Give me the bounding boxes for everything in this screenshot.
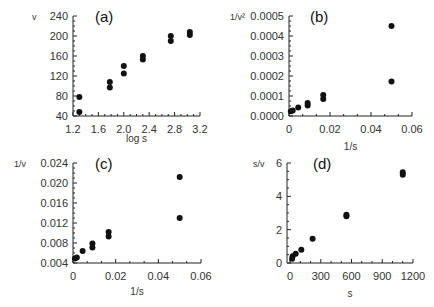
y-axis-label: 1/v (14, 159, 27, 169)
data-point (400, 169, 406, 175)
data-point (187, 32, 193, 38)
x-tick-label: 1.6 (91, 123, 106, 135)
x-tick-label: 0.06 (401, 123, 422, 135)
x-tick-label: 900 (373, 270, 391, 282)
x-tick-label: 0.02 (319, 123, 340, 135)
x-axis-label: log s (126, 133, 147, 144)
data-point (121, 71, 127, 77)
data-point (121, 63, 127, 69)
data-point (140, 57, 146, 63)
data-point (107, 79, 113, 85)
x-tick-label: 300 (312, 270, 330, 282)
y-tick-label: 0.0003 (250, 50, 284, 62)
data-point (298, 247, 304, 253)
data-point (295, 105, 301, 111)
x-tick-label: 0.02 (105, 270, 126, 282)
data-point (177, 215, 183, 221)
data-point (89, 241, 95, 247)
data-point (293, 251, 299, 257)
x-axis-label: 1/s (130, 286, 143, 297)
y-tick-label: 0.008 (40, 237, 68, 249)
data-point (107, 85, 113, 91)
panel-label: (c) (95, 155, 113, 172)
x-tick-label: 2.8 (167, 123, 182, 135)
panel-label: (a) (95, 8, 113, 25)
x-axis-label: s (348, 288, 353, 299)
data-point (305, 100, 311, 106)
data-point (80, 248, 86, 254)
x-tick-label: 600 (342, 270, 360, 282)
x-tick-label: 0 (287, 270, 293, 282)
y-tick-label: 160 (50, 50, 68, 62)
y-tick-label: 0.020 (40, 177, 68, 189)
y-axis-label: v (32, 12, 37, 22)
y-tick-label: 0.024 (40, 157, 68, 169)
y-axis-label: 1/v² (230, 12, 245, 22)
y-tick-label: 0.004 (40, 257, 68, 269)
y-tick-label: 6 (276, 157, 282, 169)
figure-canvas: 40801201602002401.21.62.02.42.83.2vlog s… (0, 0, 434, 307)
x-axis-label: 1/s (344, 141, 357, 152)
y-tick-label: 40 (56, 110, 68, 122)
data-point (389, 23, 395, 29)
data-point (177, 174, 183, 180)
data-point (76, 109, 82, 115)
panel-label: (d) (313, 155, 331, 172)
x-tick-label: 0.06 (190, 270, 211, 282)
y-tick-label: 120 (50, 70, 68, 82)
data-point (290, 108, 296, 114)
data-point (389, 79, 395, 85)
x-tick-label: 3.2 (192, 123, 207, 135)
data-point (76, 94, 82, 100)
x-tick-label: 0 (286, 123, 292, 135)
panel-label: (b) (310, 8, 328, 25)
y-tick-label: 4 (276, 190, 282, 202)
y-axis-label: s/v (253, 159, 265, 169)
y-tick-label: 0.0000 (250, 110, 284, 122)
y-tick-label: 0.0005 (250, 10, 284, 22)
y-tick-label: 80 (56, 90, 68, 102)
x-tick-label: 1200 (401, 270, 425, 282)
data-point (310, 236, 316, 242)
data-point (74, 255, 80, 261)
data-point (168, 38, 174, 44)
x-tick-label: 0.04 (148, 270, 169, 282)
y-tick-label: 0.012 (40, 217, 68, 229)
data-point (106, 229, 112, 235)
y-tick-label: 240 (50, 10, 68, 22)
y-tick-label: 0.0002 (250, 70, 284, 82)
x-tick-label: 1.2 (65, 123, 80, 135)
y-tick-label: 0.0004 (250, 30, 284, 42)
y-tick-label: 0 (276, 257, 282, 269)
x-tick-label: 0 (70, 270, 76, 282)
y-tick-label: 0.016 (40, 197, 68, 209)
y-tick-label: 200 (50, 30, 68, 42)
x-tick-label: 0.04 (360, 123, 381, 135)
data-point (320, 92, 326, 98)
data-point (343, 212, 349, 218)
y-tick-label: 2 (276, 224, 282, 236)
y-tick-label: 0.0001 (250, 90, 284, 102)
